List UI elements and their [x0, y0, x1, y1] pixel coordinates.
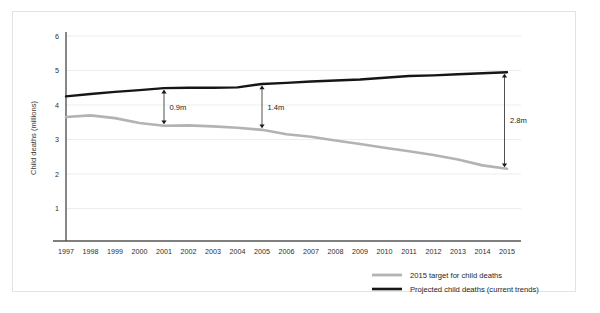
- legend-label-1: Projected child deaths (current trends): [410, 285, 539, 294]
- x-tick-label-1997: 1997: [58, 247, 74, 256]
- y-axis-title: Child deaths (millions): [29, 101, 38, 175]
- x-tick-label-2009: 2009: [352, 247, 368, 256]
- x-tick-label-1999: 1999: [107, 247, 123, 256]
- x-tick-label-2003: 2003: [205, 247, 221, 256]
- x-tick-label-2007: 2007: [303, 247, 319, 256]
- line-chart: 123456Child deaths (millions)19971998199…: [0, 0, 600, 313]
- annotation-arrowhead: [259, 125, 264, 129]
- y-tick-label-2: 2: [55, 170, 59, 179]
- annotation-arrowhead: [161, 120, 166, 124]
- x-tick-label-2000: 2000: [132, 247, 148, 256]
- annotation-arrowhead: [161, 90, 166, 94]
- series-line-projected: [66, 72, 507, 96]
- annotation-label: 2.8m: [510, 116, 527, 125]
- y-tick-label-1: 1: [55, 204, 59, 213]
- x-tick-label-2006: 2006: [279, 247, 295, 256]
- x-tick-label-2004: 2004: [230, 247, 246, 256]
- x-tick-label-2008: 2008: [328, 247, 344, 256]
- x-tick-label-1998: 1998: [83, 247, 99, 256]
- annotation-label: 1.4m: [268, 103, 285, 112]
- x-tick-label-2012: 2012: [426, 247, 442, 256]
- annotation-2.8m: 2.8m: [502, 74, 527, 168]
- y-tick-label-6: 6: [55, 32, 59, 41]
- x-tick-label-2001: 2001: [156, 247, 172, 256]
- x-tick-label-2014: 2014: [475, 247, 491, 256]
- y-tick-label-4: 4: [55, 101, 59, 110]
- annotation-label: 0.9m: [170, 103, 187, 112]
- annotation-0.9m: 0.9m: [161, 90, 186, 125]
- x-tick-label-2010: 2010: [377, 247, 393, 256]
- annotation-arrowhead: [502, 164, 507, 168]
- x-tick-label-2013: 2013: [450, 247, 466, 256]
- x-tick-label-2005: 2005: [254, 247, 270, 256]
- x-tick-label-2002: 2002: [181, 247, 197, 256]
- annotation-1.4m: 1.4m: [259, 85, 284, 128]
- x-tick-label-2011: 2011: [401, 247, 416, 256]
- series-line-target: [66, 115, 507, 168]
- chart-figure: 123456Child deaths (millions)19971998199…: [0, 0, 600, 313]
- y-tick-label-3: 3: [55, 135, 59, 144]
- x-tick-label-2015: 2015: [499, 247, 515, 256]
- annotation-arrowhead: [259, 85, 264, 89]
- y-tick-label-5: 5: [55, 66, 59, 75]
- legend-label-0: 2015 target for child deaths: [410, 271, 502, 280]
- annotation-arrowhead: [502, 74, 507, 78]
